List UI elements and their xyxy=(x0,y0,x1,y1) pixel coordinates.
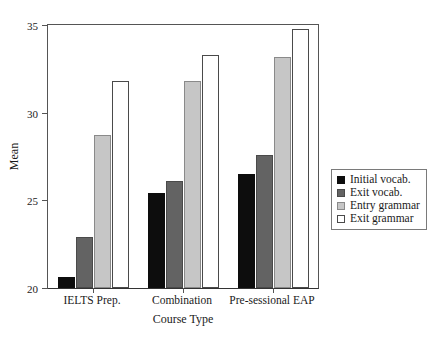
bar xyxy=(184,81,201,288)
x-axis-tick xyxy=(273,288,274,293)
bar xyxy=(166,181,183,288)
y-axis-tick-label: 35 xyxy=(27,21,38,32)
y-axis-tick: 25 xyxy=(42,200,48,201)
x-axis-title: Course Type xyxy=(47,312,319,327)
legend-item: Exit grammar xyxy=(337,212,420,225)
bar xyxy=(94,135,111,288)
legend-item-label: Exit vocab. xyxy=(350,186,402,199)
bar xyxy=(76,237,93,288)
plot-area: 20253035 xyxy=(47,24,319,289)
chart-legend: Initial vocab.Exit vocab.Entry grammarEx… xyxy=(331,169,427,230)
x-tick-labels: IELTS Prep.CombinationPre-sessional EAP xyxy=(47,294,319,310)
bar xyxy=(112,81,129,288)
legend-item: Entry grammar xyxy=(337,199,420,212)
clipped-title-text xyxy=(40,0,310,3)
legend-item: Exit vocab. xyxy=(337,186,420,199)
legend-item-label: Entry grammar xyxy=(350,199,420,212)
y-axis-title-label: Mean xyxy=(8,143,23,170)
bar xyxy=(148,193,165,288)
x-axis-tick xyxy=(93,288,94,293)
x-axis-tick-label: IELTS Prep. xyxy=(63,294,120,306)
legend-swatch-icon xyxy=(337,202,345,210)
legend-item: Initial vocab. xyxy=(337,173,420,186)
legend-swatch-icon xyxy=(337,189,345,197)
legend-swatch-icon xyxy=(337,176,345,184)
x-axis-tick xyxy=(183,288,184,293)
bar xyxy=(274,57,291,288)
y-axis-title: Mean xyxy=(8,24,22,289)
x-axis-tick-label: Combination xyxy=(152,294,212,306)
bar xyxy=(238,174,255,288)
bar xyxy=(292,29,309,288)
y-axis-tick-label: 30 xyxy=(27,108,38,119)
legend-item-label: Initial vocab. xyxy=(350,173,411,186)
bar xyxy=(256,155,273,288)
x-axis-tick-label: Pre-sessional EAP xyxy=(229,294,314,306)
legend-swatch-icon xyxy=(337,215,345,223)
y-axis-tick: 20 xyxy=(42,288,48,289)
y-axis-tick: 35 xyxy=(42,25,48,26)
bar xyxy=(58,277,75,288)
y-axis-tick-label: 25 xyxy=(27,196,38,207)
y-axis-tick: 30 xyxy=(42,113,48,114)
bar xyxy=(202,55,219,288)
y-axis-tick-label: 20 xyxy=(27,284,38,295)
legend-item-label: Exit grammar xyxy=(350,212,414,225)
bar-chart-figure: Mean 20253035 IELTS Prep.CombinationPre-… xyxy=(0,0,433,346)
